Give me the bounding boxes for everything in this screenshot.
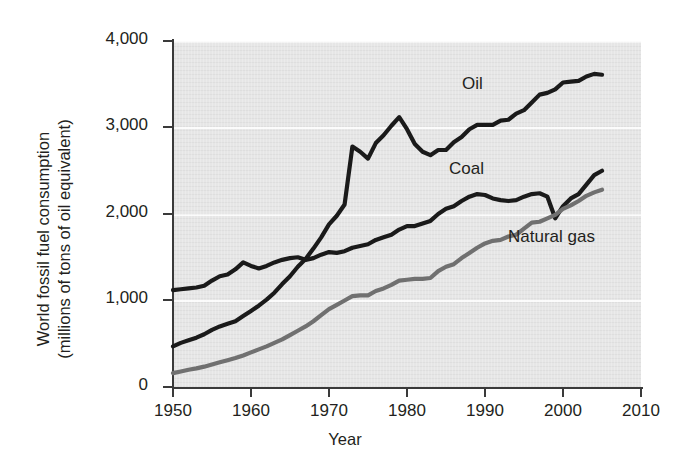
- y-tick-4000: [163, 40, 173, 42]
- x-tick-1980: [406, 387, 408, 397]
- x-tick-1970: [328, 387, 330, 397]
- x-tick-label-1970: 1970: [289, 401, 369, 421]
- chart-figure: World fossil fuel consumption (millions …: [0, 0, 690, 476]
- x-tick-1990: [484, 387, 486, 397]
- series-line-natural-gas: [173, 190, 602, 373]
- y-tick-label-2000: 2,000: [40, 202, 148, 222]
- x-tick-1950: [172, 387, 174, 397]
- y-tick-2000: [163, 213, 173, 215]
- series-label-oil: Oil: [462, 74, 483, 94]
- x-tick-label-1990: 1990: [445, 401, 525, 421]
- series-lines: [173, 41, 641, 387]
- y-tick-label-4000: 4,000: [40, 29, 148, 49]
- y-tick-label-3000: 3,000: [40, 115, 148, 135]
- series-label-coal: Coal: [449, 159, 484, 179]
- x-tick-2000: [562, 387, 564, 397]
- y-tick-1000: [163, 299, 173, 301]
- y-tick-label-0: 0: [40, 375, 148, 395]
- x-axis-title: Year: [0, 430, 690, 449]
- x-tick-label-1950: 1950: [133, 401, 213, 421]
- y-tick-label-1000: 1,000: [40, 288, 148, 308]
- x-tick-label-1960: 1960: [211, 401, 291, 421]
- x-tick-label-1980: 1980: [367, 401, 447, 421]
- x-tick-2010: [640, 387, 642, 397]
- x-tick-label-2010: 2010: [601, 401, 681, 421]
- x-tick-label-2000: 2000: [523, 401, 603, 421]
- x-tick-1960: [250, 387, 252, 397]
- series-label-natural-gas: Natural gas: [508, 227, 595, 247]
- y-tick-3000: [163, 126, 173, 128]
- series-line-oil: [173, 74, 602, 346]
